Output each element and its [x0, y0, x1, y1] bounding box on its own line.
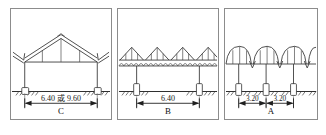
columns-c	[25, 62, 98, 90]
panel-c-drawing: 6.40 或 9.60 C	[11, 9, 111, 119]
panel-b-drawing: 6.40 B	[118, 9, 218, 119]
dimension-value-b: 6.40	[161, 94, 175, 103]
footing-right-a	[291, 84, 297, 96]
footing-mid-a	[263, 84, 269, 96]
columns-b	[137, 66, 200, 88]
panel-label-b: B	[165, 106, 171, 116]
footing-left-b	[134, 84, 140, 96]
gable-truss-c	[25, 34, 98, 62]
dimension-value-a-2: 3.20	[273, 95, 286, 103]
footing-right-b	[196, 84, 202, 96]
dimension-value-a-1: 3.20	[246, 95, 259, 103]
columns-a	[239, 64, 294, 87]
multi-gable-trusses-b	[120, 47, 217, 60]
footing-right-c	[94, 88, 101, 95]
panel-a: 3.20 3.20 A	[224, 8, 318, 120]
panel-label-c: C	[58, 106, 64, 116]
panel-a-drawing: 3.20 3.20 A	[225, 9, 317, 119]
footing-left-c	[22, 88, 29, 95]
figure-container: 6.40 或 9.60 C	[0, 0, 326, 135]
panel-label-a: A	[268, 106, 275, 116]
panel-c: 6.40 或 9.60 C	[10, 8, 112, 120]
dimension-value-c: 6.40 或 9.60	[41, 93, 81, 103]
arch-vaults-a	[226, 46, 316, 64]
panel-b: 6.40 B	[117, 8, 219, 120]
footing-left-a	[236, 84, 242, 96]
corrugated-band-b	[119, 60, 217, 66]
